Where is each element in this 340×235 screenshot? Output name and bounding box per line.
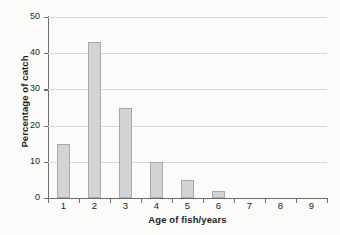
bar: [57, 144, 70, 198]
x-tick-label: 7: [235, 200, 265, 211]
x-axis-title: Age of fish/years: [48, 214, 327, 225]
bar: [181, 180, 194, 198]
y-tick-mark: [44, 53, 48, 54]
y-tick-label-text: 10: [30, 156, 40, 166]
y-tick-mark: [44, 17, 48, 18]
y-tick-label-text: 20: [30, 120, 40, 130]
x-tick-label: 8: [266, 200, 296, 211]
y-tick-label-text: 30: [30, 83, 40, 93]
bar: [88, 42, 101, 198]
x-tick-label: 4: [142, 200, 172, 211]
x-tick-label: 3: [111, 200, 141, 211]
y-tick-label-text: 0: [35, 192, 40, 202]
y-tick-mark: [44, 89, 48, 90]
gridline: [48, 17, 327, 18]
x-tick-label: 6: [204, 200, 234, 211]
bar: [150, 162, 163, 198]
x-tick-mark: [327, 198, 328, 203]
x-tick-label: 9: [297, 200, 327, 211]
y-tick-mark: [44, 126, 48, 127]
y-tick-mark: [44, 162, 48, 163]
x-tick-label: 5: [173, 200, 203, 211]
y-axis-title: Percentage of catch: [19, 32, 30, 172]
bar-chart-figure: Percentage of catch 01020304050 12345678…: [0, 0, 340, 235]
y-tick-label-text: 50: [30, 11, 40, 21]
x-tick-label: 2: [80, 200, 110, 211]
bar: [212, 191, 225, 198]
x-tick-label: 1: [49, 200, 79, 211]
y-tick-label-text: 40: [30, 47, 40, 57]
bar: [119, 108, 132, 199]
